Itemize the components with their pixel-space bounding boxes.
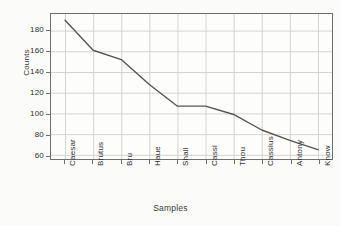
y-tick-label: 160 xyxy=(18,46,44,55)
x-tick-mark xyxy=(291,160,292,164)
x-tick-mark xyxy=(149,160,150,164)
x-tick-mark xyxy=(92,160,93,164)
x-tick-label: Caesar xyxy=(68,139,77,166)
x-tick-mark xyxy=(121,160,122,164)
x-tick-mark xyxy=(319,160,320,164)
x-tick-label: Bru xyxy=(125,153,134,166)
x-tick-label: Thou xyxy=(238,147,247,166)
y-tick-label: 60 xyxy=(18,151,44,160)
y-tick-label: 140 xyxy=(18,67,44,76)
x-tick-label: Shall xyxy=(181,147,190,166)
x-axis-title: Samples xyxy=(0,203,341,213)
y-tick-label: 120 xyxy=(18,88,44,97)
y-tick-label: 80 xyxy=(18,130,44,139)
x-tick-label: Brutus xyxy=(96,142,105,166)
x-tick-label: Know xyxy=(323,145,332,166)
x-tick-label: Antony xyxy=(295,140,304,166)
x-tick-mark xyxy=(64,160,65,164)
y-tick-label: 180 xyxy=(18,25,44,34)
x-tick-label: Cassius xyxy=(266,136,275,166)
series-line-counts xyxy=(51,14,332,159)
x-tick-mark xyxy=(262,160,263,164)
x-tick-label: Cassi xyxy=(210,145,219,166)
x-tick-mark xyxy=(234,160,235,164)
x-tick-label: Haue xyxy=(153,146,162,166)
y-axis-title: Counts xyxy=(22,33,31,93)
plot-area xyxy=(50,13,333,160)
chart-figure: Counts 1801601401201008060 CaesarBrutusB… xyxy=(0,0,341,226)
x-tick-mark xyxy=(206,160,207,164)
x-tick-mark xyxy=(177,160,178,164)
y-tick-label: 100 xyxy=(18,109,44,118)
